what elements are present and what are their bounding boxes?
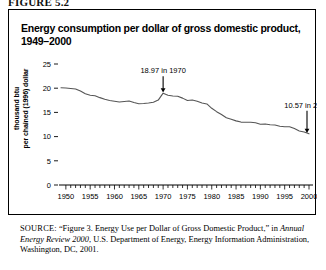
x-tick-label: 1975 [179,192,196,201]
y-tick-label: 0 [47,181,51,190]
x-tick-label: 1970 [155,192,172,201]
x-tick-label: 1990 [252,192,269,201]
source-label: SOURCE: [20,224,57,233]
x-tick-label: 1965 [130,192,147,201]
x-tick-label: 1955 [82,192,99,201]
x-tick-label: 1950 [58,192,75,201]
y-tick-label: 5 [47,157,51,166]
data-line [61,88,309,134]
figure-frame: Energy consumption per dollar of gross d… [8,9,316,215]
x-tick-label: 1985 [228,192,245,201]
y-tick-label: 15 [43,108,51,117]
source-note: SOURCE: “Figure 3. Energy Use per Dollar… [20,224,312,256]
x-tick-label: 1960 [106,192,123,201]
x-tick-label: 2000 [301,192,317,201]
annotation-arrow-head [161,88,166,92]
y-tick-label: 20 [43,84,51,93]
figure-number: FIGURE 5.2 [8,0,69,8]
data-annotation-label: 18.97 in 1970 [140,66,185,75]
x-tick-label: 1995 [276,192,293,201]
line-chart: 0510152025195019551960196519701975198019… [9,54,317,216]
data-annotation-label: 10.57 in 2000 [284,101,317,110]
chart-title-line2: 1949–2000 [21,35,301,48]
chart-title-line1: Energy consumption per dollar of gross d… [21,22,300,34]
x-tick-label: 1980 [203,192,220,201]
plot-area: 0510152025195019551960196519701975198019… [9,54,317,214]
y-tick-label: 25 [43,60,51,69]
chart-title: Energy consumption per dollar of gross d… [21,22,301,47]
source-text-part1: “Figure 3. Energy Use per Dollar of Gros… [57,224,280,233]
y-tick-label: 10 [43,132,51,141]
figure-page: FIGURE 5.2 Energy consumption per dollar… [0,0,326,270]
